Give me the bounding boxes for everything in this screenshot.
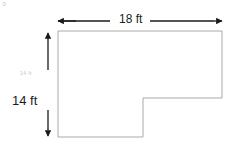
geometry-figure: [0, 0, 231, 142]
height-dimension-label: 14 ft: [12, 93, 37, 108]
l-shaped-polygon: [58, 31, 222, 137]
width-dimension-label: 18 ft: [119, 12, 142, 26]
height-dimension-label-faint: 14 ft: [20, 70, 32, 77]
corner-mark-icon: ○: [2, 0, 6, 8]
figure-canvas: ○ 18 ft 14 ft 14 ft: [0, 0, 231, 142]
